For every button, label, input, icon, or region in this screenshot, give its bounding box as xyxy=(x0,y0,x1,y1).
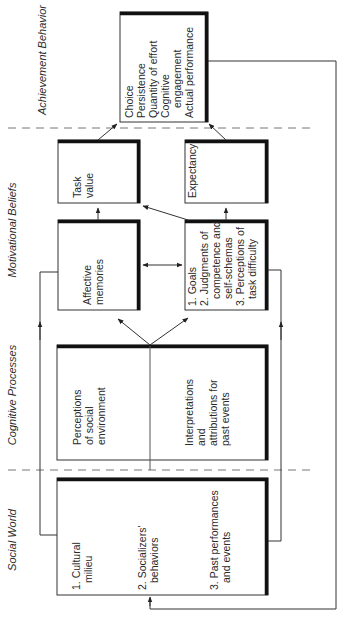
svg-text:1. Goals: 1. Goals xyxy=(186,267,198,306)
svg-text:Interpretations: Interpretations xyxy=(183,379,195,446)
svg-text:Quantity of effort: Quantity of effort xyxy=(147,40,159,118)
svg-text:engagement: engagement xyxy=(171,50,183,108)
expectancy-box: Expectancy xyxy=(185,140,268,203)
column-label-cognitive: Cognitive Processes xyxy=(6,344,18,445)
svg-text:of social: of social xyxy=(83,406,95,445)
svg-text:past events: past events xyxy=(219,392,231,446)
column-label-achievement: Achievement Behavior xyxy=(36,4,48,116)
affective-memories-box: Affective memories xyxy=(58,220,140,310)
svg-text:Cognitive: Cognitive xyxy=(159,74,171,118)
svg-text:1. Cultural: 1. Cultural xyxy=(70,542,82,590)
cognitive-processes-box: Perceptions of social environment Interp… xyxy=(57,345,268,470)
svg-text:Perceptions: Perceptions xyxy=(71,390,83,445)
svg-text:3. Perceptions of: 3. Perceptions of xyxy=(234,227,246,306)
social-world-box: 1. Cultural milieu 2. Socializers' behav… xyxy=(57,478,268,595)
svg-text:self-schemas: self-schemas xyxy=(222,237,234,299)
svg-text:Task: Task xyxy=(71,176,83,198)
svg-text:Persistence: Persistence xyxy=(135,63,147,118)
svg-text:and events: and events xyxy=(220,532,232,583)
svg-text:value: value xyxy=(83,173,95,198)
task-value-box: Task value xyxy=(58,140,140,203)
svg-text:environment: environment xyxy=(95,387,107,445)
svg-text:and: and xyxy=(195,428,207,446)
expectancy-value-diagram: Achievement Behavior Motivational Belief… xyxy=(0,0,342,617)
svg-text:attributions for: attributions for xyxy=(207,379,219,446)
svg-text:2. Judgments of: 2. Judgments of xyxy=(198,231,210,306)
column-label-social: Social World xyxy=(6,508,18,571)
svg-text:competence and: competence and xyxy=(210,221,222,299)
svg-text:Actual performance: Actual performance xyxy=(183,27,195,118)
svg-text:milieu: milieu xyxy=(82,555,94,583)
svg-text:memories: memories xyxy=(93,259,105,305)
svg-text:Choice: Choice xyxy=(123,85,135,118)
svg-text:3. Past performances: 3. Past performances xyxy=(208,490,220,590)
goals-beliefs-box: 1. Goals 2. Judgments of competence and … xyxy=(185,220,268,310)
svg-text:Expectancy: Expectancy xyxy=(186,143,198,198)
achievement-behavior-box: Choice Persistence Quantity of effort Co… xyxy=(120,12,208,122)
svg-text:Affective: Affective xyxy=(81,265,93,305)
svg-text:2. Socializers': 2. Socializers' xyxy=(136,526,148,590)
svg-text:behaviors: behaviors xyxy=(148,537,160,583)
column-label-motivational: Motivational Beliefs xyxy=(6,182,18,277)
svg-text:task difficulty: task difficulty xyxy=(246,238,258,299)
